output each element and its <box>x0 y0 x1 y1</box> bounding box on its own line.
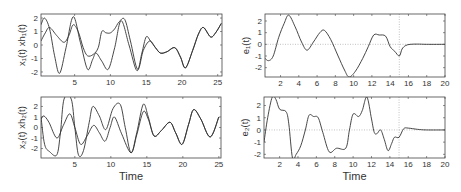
series-line-e1-0 <box>265 15 445 77</box>
x-tick-label: 15 <box>142 78 151 87</box>
x-tick-label: 6 <box>315 79 320 88</box>
axes-frame <box>41 97 221 158</box>
y-axis-label: e₂(t) <box>239 119 250 137</box>
plot-e1: 2468101214161820-2-1012e₁(t) <box>240 14 450 88</box>
series-line-e2-0 <box>264 96 445 160</box>
x-tick-label: 25 <box>213 78 222 87</box>
x-tick-label: 25 <box>214 160 223 169</box>
x-tick-label: 20 <box>441 160 450 169</box>
y-axis-label: x₁(t) xh₁(t) <box>16 24 27 66</box>
plot-x1-xh1: 510152025-2-1012x₁(t) xh₁(t) <box>16 14 223 87</box>
plot-x2-xh2: 510152025-2-1012x₂(t) xh₂(t)Time <box>16 95 224 182</box>
y-tick-label: 0 <box>258 40 263 49</box>
y-tick-label: -2 <box>254 150 262 159</box>
y-tick-label: 0 <box>34 41 39 50</box>
y-tick-label: 1 <box>34 27 39 36</box>
y-tick-label: 2 <box>34 102 39 111</box>
series-line-x2-0 <box>41 95 219 156</box>
x-tick-label: 10 <box>106 78 115 87</box>
y-tick-label: 1 <box>258 28 263 37</box>
x-tick-label: 14 <box>386 79 395 88</box>
x-tick-label: 8 <box>333 160 338 169</box>
y-tick-label: 0 <box>257 126 262 135</box>
x-tick-label: 6 <box>314 160 319 169</box>
y-tick-label: 0 <box>34 123 39 132</box>
y-tick-label: -2 <box>31 68 39 77</box>
y-tick-label: -1 <box>31 134 39 143</box>
x-tick-label: 20 <box>441 79 450 88</box>
y-tick-label: -1 <box>254 138 262 147</box>
x-tick-label: 4 <box>297 79 302 88</box>
x-tick-label: 10 <box>106 160 115 169</box>
y-axis-label: e₁(t) <box>240 37 251 54</box>
x-axis-label: Time <box>119 170 143 182</box>
y-tick-label: -1 <box>31 54 39 63</box>
y-tick-label: -1 <box>255 52 263 61</box>
x-tick-label: 12 <box>367 160 376 169</box>
x-tick-label: 5 <box>72 78 77 87</box>
x-tick-label: 18 <box>422 160 431 169</box>
x-tick-label: 10 <box>349 160 358 169</box>
axes-frame <box>265 14 445 77</box>
y-tick-label: 1 <box>34 113 39 122</box>
x-tick-label: 16 <box>404 160 413 169</box>
x-tick-label: 14 <box>385 160 394 169</box>
x-tick-label: 8 <box>333 79 338 88</box>
x-tick-label: 2 <box>278 79 283 88</box>
series-line-x2-1 <box>41 110 219 153</box>
x-tick-label: 20 <box>178 160 187 169</box>
figure: 510152025-2-1012x₁(t) xh₁(t) 510152025-2… <box>0 0 461 192</box>
y-tick-label: 2 <box>258 17 263 26</box>
x-tick-label: 5 <box>73 160 78 169</box>
x-tick-label: 16 <box>404 79 413 88</box>
y-tick-label: 1 <box>257 114 262 123</box>
x-tick-label: 12 <box>367 79 376 88</box>
y-tick-label: 2 <box>34 14 39 23</box>
x-tick-label: 4 <box>296 160 301 169</box>
y-tick-label: 2 <box>257 101 262 110</box>
plot-e2: 2468101214161820-2-1012e₂(t)Time <box>239 96 450 182</box>
series-line-x1-1 <box>41 18 221 69</box>
y-tick-label: -2 <box>31 144 39 153</box>
y-axis-label: x₂(t) xh₂(t) <box>16 106 27 149</box>
x-axis-label: Time <box>342 170 366 182</box>
x-tick-label: 18 <box>422 79 431 88</box>
x-tick-label: 10 <box>349 79 358 88</box>
x-tick-label: 15 <box>142 160 151 169</box>
x-tick-label: 20 <box>177 78 186 87</box>
x-tick-label: 2 <box>277 160 282 169</box>
y-tick-label: -2 <box>255 63 263 72</box>
